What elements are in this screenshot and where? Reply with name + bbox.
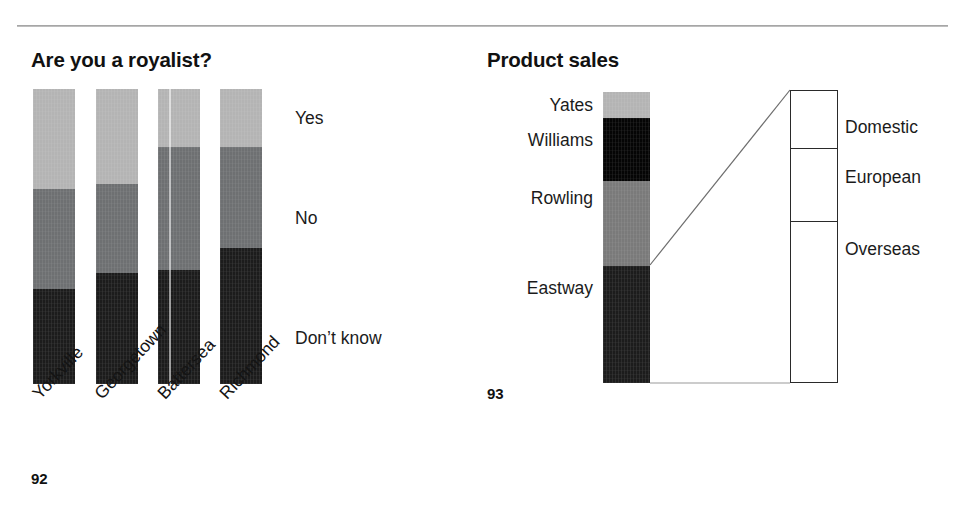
page-title-left: Are you a royalist?	[31, 48, 212, 72]
bar-segment-williams	[603, 118, 650, 181]
bar-yorkville[interactable]	[33, 89, 75, 384]
bar-segment-yates	[603, 92, 650, 118]
bar-segment-eastway	[603, 266, 650, 383]
series-label-eastway: Eastway	[447, 278, 593, 299]
series-label-yates: Yates	[447, 95, 593, 116]
bar-segment-yes	[96, 89, 138, 184]
stacked-bar-product-sales[interactable]	[603, 92, 650, 383]
series-label-rowling: Rowling	[447, 188, 593, 209]
page-title-right: Product sales	[487, 48, 619, 72]
bar-segment-no	[96, 184, 138, 273]
bar-segment-yes	[33, 89, 75, 189]
chart-panel-royalist: Are you a royalist?	[0, 0, 470, 512]
callout-label-domestic: Domestic	[845, 117, 918, 138]
bar-richmond[interactable]	[220, 89, 262, 384]
page-number-left: 92	[31, 470, 48, 487]
bar-georgetown[interactable]	[96, 89, 138, 384]
bar-hairline-artifact	[169, 89, 171, 384]
bar-segment-yes	[158, 89, 200, 147]
callout-box-market-breakdown[interactable]	[790, 90, 838, 383]
callout-segment-domestic	[791, 91, 837, 149]
callout-segment-overseas	[791, 222, 837, 382]
callout-label-european: European	[845, 167, 921, 188]
series-label-williams: Williams	[447, 130, 593, 151]
page-number-right: 93	[487, 385, 504, 402]
bar-segment-yes	[220, 89, 262, 147]
callout-label-overseas: Overseas	[845, 239, 920, 260]
callout-segment-european	[791, 149, 837, 223]
legend-item-no: No	[295, 208, 317, 229]
bar-segment-rowling	[603, 181, 650, 266]
legend-item-yes: Yes	[295, 108, 324, 129]
legend-item-dont-know: Don’t know	[295, 328, 382, 349]
bar-segment-no	[220, 147, 262, 248]
bar-segment-no	[158, 147, 200, 270]
bar-segment-no	[33, 189, 75, 289]
figure-page: Are you a royalist?	[0, 0, 962, 512]
